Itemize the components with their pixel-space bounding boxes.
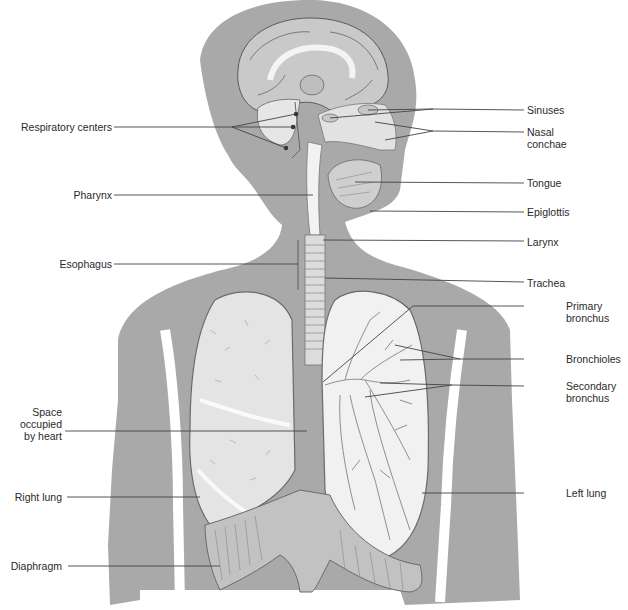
label-line: Secondary [566, 380, 616, 392]
respiratory-diagram [0, 0, 628, 610]
label-line: Primary [566, 300, 609, 312]
right-lung [190, 292, 295, 525]
label-line: bronchus [566, 312, 609, 324]
label-bronchioles: Bronchioles [566, 353, 621, 365]
label-line: by heart [20, 430, 62, 442]
label-esophagus: Esophagus [59, 258, 112, 270]
label-nasal-conchae: Nasal conchae [527, 126, 567, 150]
label-primary-bronchus: Primary bronchus [566, 300, 609, 324]
label-larynx: Larynx [527, 236, 559, 248]
label-diaphragm: Diaphragm [11, 560, 62, 572]
label-line: bronchus [566, 392, 616, 404]
label-line: occupied [20, 418, 62, 430]
label-line: Space [20, 406, 62, 418]
label-right-lung: Right lung [15, 491, 62, 503]
label-tongue: Tongue [527, 177, 561, 189]
label-line: Nasal [527, 126, 567, 138]
label-epiglottis: Epiglottis [527, 206, 570, 218]
label-respiratory-centers: Respiratory centers [21, 121, 112, 133]
label-trachea: Trachea [527, 277, 565, 289]
label-line: conchae [527, 138, 567, 150]
label-sinuses: Sinuses [527, 104, 564, 116]
label-pharynx: Pharynx [73, 189, 112, 201]
label-secondary-bronchus: Secondary bronchus [566, 380, 616, 404]
label-left-lung: Left lung [566, 487, 606, 499]
label-space-occupied-by-heart: Space occupied by heart [20, 406, 62, 442]
